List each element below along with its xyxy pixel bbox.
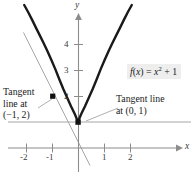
- equation-suffix: + 1: [162, 66, 177, 77]
- tangent-left-line1: Tangent: [3, 86, 34, 98]
- y-axis-arrow-icon: [75, 13, 82, 20]
- function-equation-label: f(x) = x2 + 1: [127, 64, 181, 79]
- y-tick-label-2: 2: [64, 91, 69, 101]
- point-marker-0-1: [75, 119, 80, 124]
- x-tick-label-neg2: -2: [20, 152, 28, 162]
- equation-equals: =: [144, 66, 154, 77]
- x-axis-arrow-icon: [176, 145, 183, 152]
- x-tick-label-1: 1: [102, 152, 107, 162]
- x-tick-label-neg1: -1: [46, 152, 54, 162]
- leader-line-left: [38, 99, 52, 108]
- tangent-line-figure: y x -2 -1 1 2 2 3 4 f(x) = x2 + 1 Tangen…: [0, 0, 195, 176]
- tangent-left-line2: line at: [3, 98, 34, 110]
- tangent-right-line2: at (0, 1): [116, 105, 165, 117]
- tangent-left-annotation: Tangent line at (−1, 2): [3, 86, 34, 121]
- tangent-left-line3: (−1, 2): [3, 109, 34, 121]
- y-axis-label: y: [75, 0, 79, 10]
- tangent-right-line1: Tangent line: [116, 93, 165, 105]
- y-tick-label-3: 3: [64, 65, 69, 75]
- leader-line-right: [86, 108, 118, 121]
- point-marker-neg1-2: [50, 94, 55, 99]
- x-axis-label: x: [185, 141, 189, 151]
- tangent-right-annotation: Tangent line at (0, 1): [116, 93, 165, 116]
- y-tick-label-4: 4: [64, 39, 69, 49]
- x-tick-label-2: 2: [128, 152, 133, 162]
